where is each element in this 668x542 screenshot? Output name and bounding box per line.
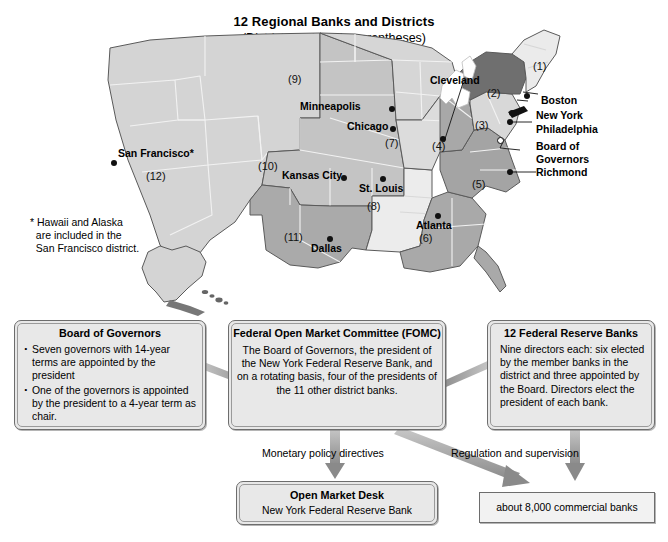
map-label-new-york: New York bbox=[536, 110, 583, 121]
box-commercial-banks[interactable]: about 8,000 commercial banks bbox=[479, 492, 655, 523]
box-open-market-desk-body: New York Federal Reserve Bank bbox=[237, 502, 437, 521]
dot-philadelphia bbox=[507, 119, 513, 125]
label-regulation-and-supervision: Regulation and supervision bbox=[451, 447, 579, 459]
map-label-richmond: Richmond bbox=[536, 167, 587, 178]
map-label-board-of-governors-line2: Governors bbox=[536, 154, 589, 165]
box-commercial-banks-body: about 8,000 commercial banks bbox=[480, 493, 654, 518]
map-label-philadelphia: Philadelphia bbox=[536, 124, 598, 135]
map-label-kansas-city: Kansas City bbox=[282, 170, 342, 181]
us-federal-reserve-map: San Francisco* Minneapolis Chicago Cleve… bbox=[0, 0, 668, 320]
dot-new-york bbox=[509, 110, 515, 116]
dot-minneapolis bbox=[389, 106, 395, 112]
district-number-10: (10) bbox=[258, 160, 278, 172]
box-open-market-desk-title: Open Market Desk bbox=[237, 482, 437, 502]
district-number-4: (4) bbox=[432, 140, 445, 152]
map-label-board-of-governors-line1: Board of bbox=[536, 141, 579, 152]
map-label-st-louis: St. Louis bbox=[359, 183, 403, 194]
box-fomc-body: The Board of Governors, the president of… bbox=[229, 340, 445, 401]
box-board-of-governors[interactable]: Board of Governors Seven governors with … bbox=[14, 320, 206, 430]
alaska-inset bbox=[142, 246, 206, 302]
district-number-3: (3) bbox=[475, 119, 488, 131]
bog-bullet-1: Seven governors with 14-year terms are a… bbox=[23, 343, 197, 383]
district-number-7: (7) bbox=[385, 137, 398, 149]
box-fomc-title: Federal Open Market Committee (FOMC) bbox=[229, 321, 445, 340]
district-number-6: (6) bbox=[419, 232, 432, 244]
district-number-2: (2) bbox=[487, 87, 500, 99]
dot-san-francisco bbox=[111, 160, 117, 166]
hawaii-inset bbox=[202, 290, 229, 305]
dot-chicago bbox=[390, 126, 396, 132]
map-label-dallas: Dallas bbox=[311, 243, 342, 254]
label-monetary-policy-directives: Monetary policy directives bbox=[262, 447, 384, 459]
alaska-aleutians bbox=[166, 300, 205, 316]
box-reserve-banks-title: 12 Federal Reserve Banks bbox=[488, 321, 654, 340]
district-number-9: (9) bbox=[288, 73, 301, 85]
florida-region bbox=[474, 246, 506, 292]
map-label-atlanta: Atlanta bbox=[416, 220, 452, 231]
box-open-market-desk[interactable]: Open Market Desk New York Federal Reserv… bbox=[236, 481, 438, 525]
dot-boston bbox=[524, 93, 530, 99]
bog-bullet-2: One of the governors is appointed by the… bbox=[23, 384, 197, 424]
map-label-san-francisco: San Francisco* bbox=[118, 148, 194, 159]
box-board-of-governors-title: Board of Governors bbox=[15, 321, 205, 340]
district-number-1: (1) bbox=[533, 60, 546, 72]
box-reserve-banks-body: Nine directors each: six elected by the … bbox=[488, 340, 654, 413]
map-label-cleveland: Cleveland bbox=[430, 75, 480, 86]
dot-richmond bbox=[507, 169, 513, 175]
box-fomc[interactable]: Federal Open Market Committee (FOMC) The… bbox=[228, 320, 446, 430]
fed-structure-diagram: Board of Governors Seven governors with … bbox=[0, 315, 668, 542]
district-number-11: (11) bbox=[284, 231, 303, 243]
map-footnote: * Hawaii and Alaska are included in the … bbox=[30, 216, 139, 255]
page-root: 12 Regional Banks and Districts (Distric… bbox=[0, 0, 668, 542]
district-number-12: (12) bbox=[146, 170, 166, 182]
map-label-minneapolis: Minneapolis bbox=[300, 101, 361, 112]
box-12-federal-reserve-banks[interactable]: 12 Federal Reserve Banks Nine directors … bbox=[487, 320, 655, 430]
map-label-boston: Boston bbox=[541, 95, 577, 106]
box-board-of-governors-body: Seven governors with 14-year terms are a… bbox=[15, 340, 205, 428]
dot-board-of-governors bbox=[497, 137, 504, 144]
map-label-chicago: Chicago bbox=[347, 121, 388, 132]
district-number-5: (5) bbox=[472, 178, 485, 190]
district-number-8: (8) bbox=[367, 200, 380, 212]
